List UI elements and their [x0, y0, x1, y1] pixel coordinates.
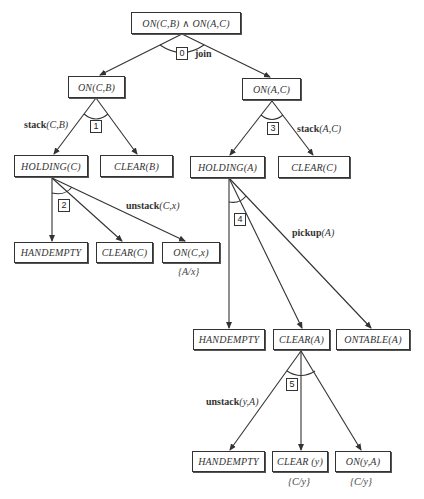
and-arc-3 [261, 115, 283, 120]
edge-onac-holdinga [230, 101, 272, 155]
operator-args: (C,x) [159, 200, 179, 211]
node-holding-a: HOLDING(A) [190, 156, 265, 178]
node-on-c-x: ON(C,x) [162, 242, 220, 263]
operator-label-0: join [195, 48, 212, 59]
operator-name: stack [24, 119, 46, 130]
operator-args: (y,A) [239, 396, 258, 407]
and-arc-1 [84, 114, 108, 119]
operator-name: pickup [292, 227, 321, 238]
and-arc-number-3: 3 [267, 122, 279, 135]
edge-oncb-clearb [96, 98, 137, 154]
operator-args: (C,B) [46, 119, 68, 130]
operator-label-1: stack(C,B) [24, 119, 68, 130]
substitution-clear-y: {C/y} [288, 476, 310, 487]
node-on-y-a: ON(y,A) [335, 451, 391, 472]
node-on-c-b: ON(C,B) [68, 76, 125, 98]
node-clear-y: CLEAR (y) [272, 451, 328, 472]
and-arc-number-0: 0 [176, 47, 188, 60]
and-arc-number-1: 1 [90, 120, 102, 133]
operator-label-3: stack(A,C) [297, 123, 341, 134]
node-clear-b: CLEAR(B) [100, 155, 173, 177]
operator-label-2: unstack(C,x) [126, 200, 180, 211]
node-clear-a: CLEAR(A) [273, 329, 330, 350]
and-arc-number-2: 2 [58, 199, 70, 212]
operator-label-4: pickup(A) [292, 227, 334, 238]
node-on-a-c: ON(A,C) [242, 78, 301, 100]
node-clear-c: CLEAR(C) [96, 242, 153, 263]
node-ontable-a: ONTABLE(A) [336, 329, 410, 350]
operator-name: stack [297, 123, 319, 134]
node-handempty-1: HANDEMPTY [14, 242, 88, 263]
operator-name: join [195, 48, 212, 59]
edge-root-oncb [100, 34, 182, 75]
substitution-on-c-x: {A/x} [178, 266, 199, 277]
substitution-on-y-a: {C/y} [350, 476, 372, 487]
and-arc-4 [229, 196, 246, 202]
operator-args: (A,C) [319, 123, 341, 134]
and-arc-number-4: 4 [234, 213, 246, 226]
operator-args: (A) [321, 227, 334, 238]
node-clear-c-top: CLEAR(C) [278, 156, 350, 178]
node-handempty-3: HANDEMPTY [192, 451, 265, 472]
operator-name: unstack [126, 200, 159, 211]
operator-label-5: unstack(y,A) [206, 396, 259, 407]
operator-name: unstack [206, 396, 239, 407]
node-holding-c: HOLDING(C) [14, 155, 88, 177]
edge-holdinga-ontablea [229, 178, 371, 328]
node-goal-conjunction: ON(C,B) ∧ ON(A,C) [131, 12, 241, 34]
node-handempty-2: HANDEMPTY [193, 329, 265, 350]
and-arc-number-5: 5 [286, 378, 298, 391]
edge-cleara-onya [301, 351, 361, 450]
